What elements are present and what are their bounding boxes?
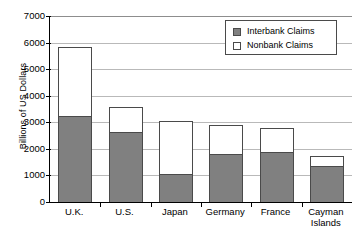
legend-swatch-icon [233,42,241,50]
x-axis-category-label-line: Islands [294,217,358,228]
bar-segment-interbank [310,166,344,202]
legend-item-label: Nonbank Claims [247,41,313,50]
bar-segment-nonbank [260,128,294,152]
y-axis-tick [46,175,51,176]
bar-stack [159,121,193,202]
x-axis-category-label: CaymanIslands [294,206,358,228]
y-axis-tick-label: 7000 [11,11,45,20]
y-axis-tick [46,43,51,44]
legend-swatch-icon [233,28,241,36]
bar-segment-nonbank [310,156,344,167]
y-axis-tick [46,149,51,150]
gridline [50,149,352,150]
bar-segment-nonbank [109,107,143,132]
bar-segment-interbank [209,154,243,202]
bar-segment-interbank [159,174,193,202]
bar-segment-interbank [109,132,143,202]
gridline [50,96,352,97]
y-axis-title: Billions of US Dollars [18,31,28,181]
legend-item: Interbank Claims [233,25,336,38]
y-axis-tick [46,69,51,70]
bar-segment-nonbank [159,121,193,174]
y-axis-tick [46,96,51,97]
y-axis-tick-label: 1000 [11,170,45,179]
y-axis-tick-label: 0 [11,197,45,206]
gridline [50,122,352,123]
gridline [50,175,352,176]
bar-stack [58,47,92,202]
bar-chart: Billions of US Dollars 01000200030004000… [0,0,358,246]
y-axis-tick-label: 4000 [11,91,45,100]
y-axis-tick-label: 2000 [11,144,45,153]
chart-legend: Interbank ClaimsNonbank Claims [225,20,337,55]
bar-stack [310,156,344,202]
bar-segment-interbank [58,116,92,202]
legend-item: Nonbank Claims [233,39,336,52]
y-axis-tick [46,16,51,17]
bar-stack [109,107,143,202]
y-axis-tick-label: 6000 [11,38,45,47]
gridline [50,69,352,70]
bar-stack [209,125,243,202]
bar-segment-nonbank [209,125,243,154]
y-axis-tick [46,122,51,123]
bar-stack [260,128,294,202]
bar-segment-nonbank [58,47,92,115]
y-axis-tick-label: 5000 [11,64,45,73]
y-axis-tick-label: 3000 [11,117,45,126]
gridline [50,16,352,17]
x-axis-category-label-line: Cayman [294,206,358,217]
bar-segment-interbank [260,152,294,202]
legend-item-label: Interbank Claims [247,27,315,36]
